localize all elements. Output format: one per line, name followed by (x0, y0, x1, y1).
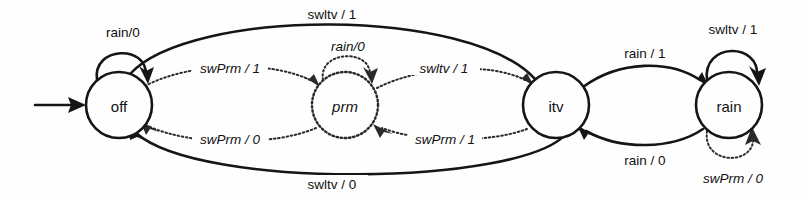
state-prm-label: prm (331, 98, 358, 115)
state-rain[interactable]: rain (696, 72, 762, 138)
state-machine-diagram: rain/0 rain/0 swltv / 1 swPrm / 0 swltv … (0, 0, 805, 199)
state-itv-label: itv (549, 98, 565, 115)
initial-state-arrow (35, 97, 86, 113)
transition-rain-to-itv (577, 125, 703, 145)
edge-label-itv-to-rain: rain / 1 (624, 46, 665, 61)
edge-label-itv-to-off: swltv / 0 (308, 177, 357, 192)
edge-label-prm-to-itv: swltv / 1 (420, 61, 469, 76)
edge-label-rain-to-itv: rain / 0 (624, 153, 665, 168)
edge-label-prm-self: rain/0 (331, 39, 365, 54)
state-off-label: off (111, 98, 128, 115)
transition-itv-to-rain (583, 66, 709, 87)
edge-label-rain-self-bottom: swPrm / 0 (703, 171, 763, 186)
state-rain-label: rain (716, 98, 741, 115)
edge-label-off-to-itv: swltv / 1 (308, 7, 357, 22)
edge-label-prm-to-off: swPrm / 0 (200, 132, 260, 147)
state-itv[interactable]: itv (523, 72, 589, 138)
state-prm[interactable]: prm (312, 72, 378, 138)
diagram-canvas: rain/0 rain/0 swltv / 1 swPrm / 0 swltv … (0, 0, 805, 199)
state-off[interactable]: off (86, 72, 152, 138)
edge-label-off-to-prm: swPrm / 1 (200, 61, 260, 76)
edge-label-itv-to-prm: swPrm / 1 (415, 132, 475, 147)
edge-label-rain-self-top: swltv / 1 (709, 22, 758, 37)
edge-label-off-self: rain/0 (106, 25, 140, 40)
